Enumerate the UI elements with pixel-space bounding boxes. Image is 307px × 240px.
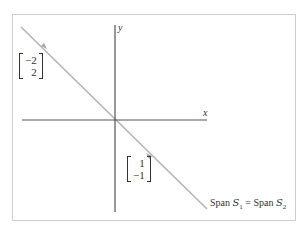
span-line (21, 27, 207, 209)
span-word: Span (210, 197, 230, 208)
vector-v2-entry-1: 1 (133, 157, 145, 169)
equals-sign: = (245, 197, 251, 208)
span-equality-label: Span S1 = Span S2 (210, 198, 286, 211)
vector-v2-matrix: 1 −1 (127, 156, 151, 182)
matrix-column: −2 2 (23, 53, 39, 79)
set-subscript: 2 (283, 203, 287, 211)
vector-v1-matrix: −2 2 (19, 53, 43, 79)
set-symbol: S (276, 197, 283, 208)
matrix-column: 1 −1 (131, 156, 147, 182)
right-bracket (39, 53, 43, 79)
vector-v2-entry-2: −1 (133, 169, 145, 181)
vector-v1-entry-2: 2 (25, 66, 37, 78)
span-word: Span (254, 197, 274, 208)
vector-v1-entry-1: −2 (25, 54, 37, 66)
y-axis-label: y (118, 23, 122, 33)
x-axis-label: x (203, 108, 207, 118)
set-subscript: 1 (239, 203, 243, 211)
right-bracket (147, 156, 151, 182)
